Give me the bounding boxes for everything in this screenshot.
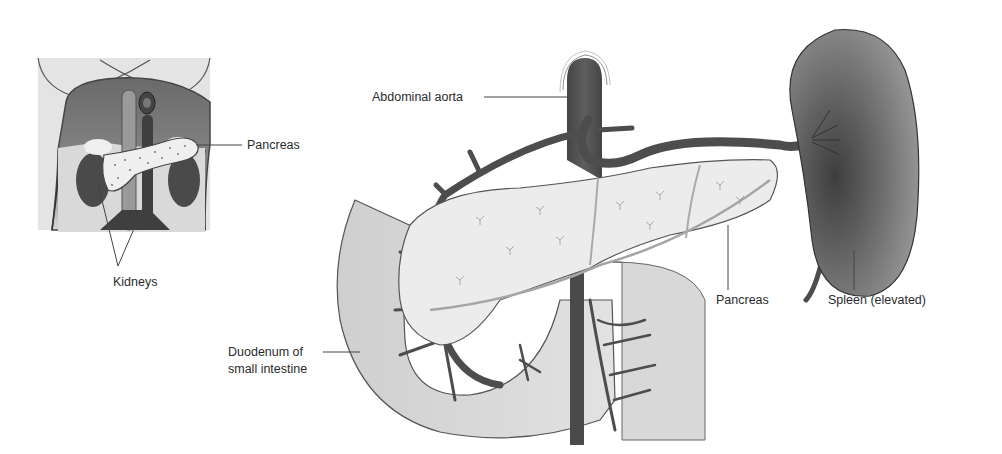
inset-pancreas-label: Pancreas [247, 138, 300, 153]
spleen-label: Spleen (elevated) [828, 293, 926, 308]
inset-kidneys-label: Kidneys [113, 275, 157, 290]
duodenum-label-line2: small intestine [228, 362, 307, 377]
main-pancreas-label: Pancreas [716, 293, 769, 308]
inset-torso [38, 58, 210, 232]
abdominal-aorta-label: Abdominal aorta [372, 90, 463, 105]
duodenum-label-line1: Duodenum of [228, 345, 303, 360]
anatomy-illustration [0, 0, 1002, 454]
